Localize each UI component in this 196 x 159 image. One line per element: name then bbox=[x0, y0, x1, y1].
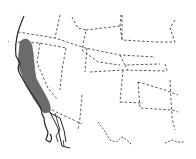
southern-border bbox=[98, 122, 184, 145]
range-map bbox=[0, 0, 196, 159]
range-area bbox=[18, 39, 50, 113]
small-marker bbox=[8, 41, 9, 42]
